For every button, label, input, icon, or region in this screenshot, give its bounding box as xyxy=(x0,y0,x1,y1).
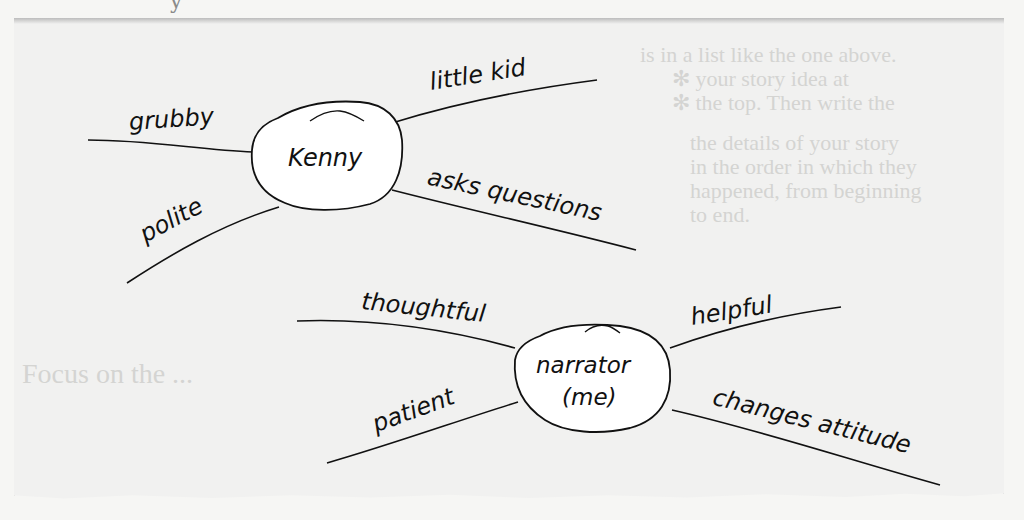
node-label-kenny: Kenny xyxy=(288,144,362,172)
connector-little-kid xyxy=(392,80,597,123)
trait-label: grubby xyxy=(128,102,215,136)
node-label-narrator: narrator xyxy=(536,352,630,378)
node-narrator xyxy=(515,325,670,432)
connector-grubby xyxy=(88,140,253,152)
node-label-narrator-sub: (me) xyxy=(562,384,617,410)
